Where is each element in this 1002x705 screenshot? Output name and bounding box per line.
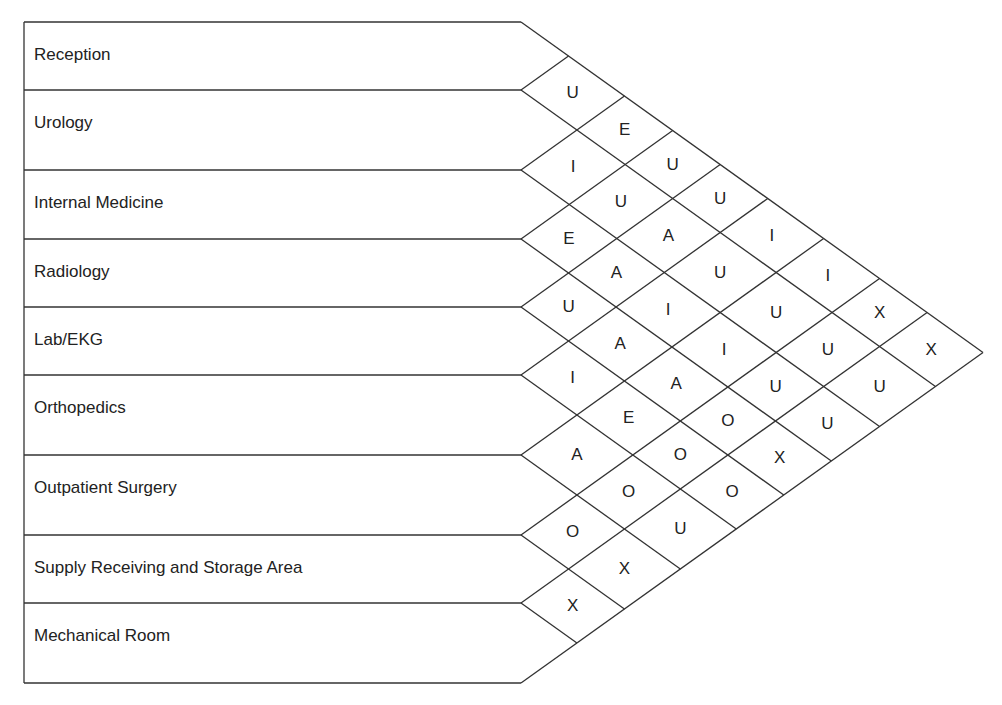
relationship-code: U	[615, 192, 627, 212]
department-label-supply-receiving: Supply Receiving and Storage Area	[34, 558, 302, 578]
diagonal-up	[521, 353, 983, 684]
department-label-outpatient-surgery: Outpatient Surgery	[34, 478, 177, 498]
department-label-urology: Urology	[34, 113, 93, 133]
department-label-lab-ekg: Lab/EKG	[34, 330, 103, 350]
relationship-code: O	[721, 411, 734, 431]
relationship-code: I	[571, 157, 576, 177]
diagonal-up	[521, 199, 768, 376]
relationship-code: X	[567, 596, 578, 616]
relationship-code: E	[619, 120, 630, 140]
relationship-code: A	[670, 374, 681, 394]
relationship-code: O	[566, 522, 579, 542]
diagonal-down	[521, 375, 736, 529]
relationship-code: U	[770, 303, 782, 323]
relationship-code: X	[874, 303, 885, 323]
relationship-code: U	[770, 377, 782, 397]
diagonal-down	[521, 307, 784, 495]
diagonal-up	[521, 56, 569, 90]
relationship-code: X	[926, 340, 937, 360]
relationship-code: I	[570, 368, 575, 388]
relationship-code: U	[674, 519, 686, 539]
diagonal-down	[521, 239, 831, 461]
relationship-code: U	[873, 377, 885, 397]
department-label-internal-medicine: Internal Medicine	[34, 193, 163, 213]
relationship-code: U	[821, 414, 833, 434]
relationship-code: A	[611, 263, 622, 283]
relationship-code: X	[774, 448, 785, 468]
relationship-code: I	[825, 266, 830, 286]
diagonal-up	[521, 165, 720, 308]
department-label-reception: Reception	[34, 45, 111, 65]
relationship-code: I	[666, 300, 671, 320]
relationship-code: E	[563, 229, 574, 249]
relationship-code: A	[571, 445, 582, 465]
relationship-code: U	[714, 263, 726, 283]
relationship-code: A	[663, 226, 674, 246]
department-label-mechanical-room: Mechanical Room	[34, 626, 170, 646]
rel-chart-grid	[0, 0, 1002, 705]
relationship-code: U	[822, 340, 834, 360]
relationship-code: X	[619, 559, 630, 579]
relationship-code: U	[667, 155, 679, 175]
relationship-code: E	[623, 408, 634, 428]
diagonal-down	[521, 90, 935, 387]
diagonal-down	[521, 170, 880, 427]
relationship-code: O	[725, 482, 738, 502]
relationship-code: I	[770, 226, 775, 246]
relationship-code: U	[567, 83, 579, 103]
diagonal-up	[521, 131, 673, 240]
relationship-code: I	[722, 340, 727, 360]
diagonal-up	[521, 279, 880, 536]
relationship-code: O	[622, 482, 635, 502]
relationship-code: A	[615, 334, 626, 354]
relationship-code: U	[714, 189, 726, 209]
relationship-code: U	[562, 297, 574, 317]
department-label-radiology: Radiology	[34, 262, 110, 282]
relationship-code: O	[674, 445, 687, 465]
diagonal-down	[521, 22, 983, 353]
department-label-orthopedics: Orthopedics	[34, 398, 126, 418]
